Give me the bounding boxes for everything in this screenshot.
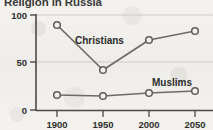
series-markers-christians	[54, 22, 199, 74]
series-line-muslims	[57, 91, 195, 96]
series-markers-muslims	[54, 88, 199, 100]
y-tick-label-100: 100	[11, 10, 27, 21]
series-label-muslims: Muslims	[152, 77, 192, 88]
y-tick-label-0: 0	[22, 105, 27, 116]
x-tick-label-1950: 1950	[92, 119, 113, 130]
chart-screenshot: Religion in Russia 100 50 0 1900	[0, 0, 213, 130]
y-tick-label-50: 50	[16, 57, 27, 68]
x-tick-label-2050: 2050	[184, 119, 205, 130]
x-tick-label-2000: 2000	[138, 119, 159, 130]
line-chart-plot: 100 50 0 1900 1950 2000 2050	[0, 0, 213, 130]
series-line-christians	[57, 25, 195, 70]
x-tick-label-1900: 1900	[46, 119, 67, 130]
y-axis-ticks	[30, 15, 36, 110]
series-label-christians: Christians	[75, 35, 124, 46]
gridlines	[36, 15, 213, 62]
